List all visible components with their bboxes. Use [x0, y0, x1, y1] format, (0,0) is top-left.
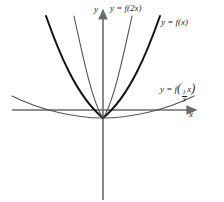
y-axis-label: y	[94, 5, 98, 14]
graph-figure: y x y = f(2x) y = f(x) y = f(13x)	[0, 0, 224, 202]
label-open-paren: (	[177, 81, 181, 95]
fraction-denominator: 3	[182, 96, 187, 104]
curve-label-f-x: y = f(x)	[161, 18, 188, 27]
curve-label-f-one-third-x: y = f(13x)	[160, 82, 195, 104]
label-lhs: y =	[161, 17, 173, 27]
label-lhs: y =	[110, 3, 122, 13]
label-lhs: y =	[160, 84, 172, 94]
x-axis-label: x	[189, 110, 193, 119]
label-arg: (x)	[178, 17, 188, 27]
curve-label-f-2x: y = f(2x)	[110, 4, 142, 13]
label-close-paren: )	[191, 81, 195, 95]
label-arg: (2x)	[127, 3, 142, 13]
